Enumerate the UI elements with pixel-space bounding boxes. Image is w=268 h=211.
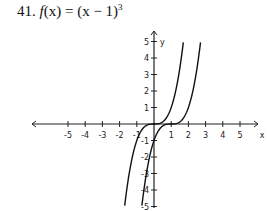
y-axis-label: y: [160, 38, 165, 47]
y-tick-label: 5: [144, 38, 149, 47]
y-tick-label: 2: [144, 87, 149, 96]
x-tick-label: 2: [186, 131, 191, 140]
x-axis-label: x: [260, 131, 265, 140]
y-tick-label: -1: [141, 137, 149, 146]
y-tick-label: -4: [141, 186, 149, 195]
x-tick-label: -3: [98, 131, 106, 140]
x-tick-label: 5: [237, 131, 242, 140]
x-tick-label: -4: [81, 131, 89, 140]
y-tick-label: 3: [144, 71, 149, 80]
x-tick-label: -2: [116, 131, 124, 140]
y-tick-label: -3: [141, 170, 149, 179]
cubic-graph: -5-4-3-2-11234554321-1-2-3-4-5xy: [0, 0, 268, 211]
x-tick-label: 4: [220, 131, 225, 140]
y-tick-label: 4: [144, 54, 149, 63]
y-tick-label: 1: [144, 104, 149, 113]
y-tick-label: -2: [141, 153, 149, 162]
x-tick-label: 3: [203, 131, 208, 140]
x-tick-label: 1: [169, 131, 174, 140]
x-tick-label: -5: [64, 131, 72, 140]
